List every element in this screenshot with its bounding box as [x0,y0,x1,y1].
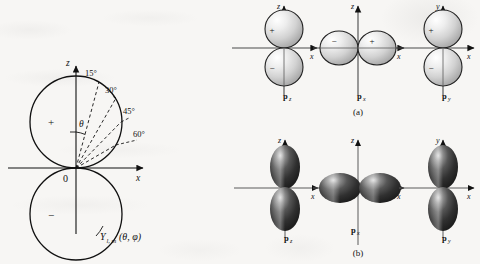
a2-left-sign: − [331,36,336,46]
b3-orbital-sub: y [447,238,451,244]
panel-b-orbital-px: z x p x [313,136,404,245]
angle-label-15: 15° [85,68,97,78]
panel-a-orbital-px: − + z x p x [313,2,404,102]
panel-a-orbital-pz: + − z x p z [232,2,317,102]
b3-upper-lobe-sheen [428,145,458,189]
b1-upper-lobe-sheen [270,145,300,189]
a1-orbital-label: p [283,91,288,101]
left-origin-label: 0 [63,173,68,184]
a1-orbital-sub: z [288,96,292,102]
b1-z-axis-label: z [277,136,282,145]
a2-orbital-label: p [357,91,362,101]
angle-label-60: 60° [133,129,145,139]
left-theta-arc [76,132,85,135]
figure-svg: z x 0 + − θ 15° 30° 45° 60° Y l, m (θ, φ… [0,0,480,264]
panel-a-caption: (a) [353,107,363,117]
b1-orbital-label: p [284,233,289,243]
b3-lower-lobe-sheen [428,187,458,231]
b1-x-axis-label: x [310,192,315,201]
function-args: (θ, φ) [119,231,142,243]
b2-orbital-label: p [351,225,356,235]
a2-orbital-sub: x [362,96,366,102]
panel-a-orbital-py: + − y x p y [398,2,474,102]
angle-label-45: 45° [123,106,135,116]
a1-lower-sign: − [269,63,274,73]
angle-label-30: 30° [105,85,117,95]
left-upper-sign: + [48,116,54,128]
left-x-axis-label: x [135,173,141,183]
b3-orbital-label: p [442,233,447,243]
b2-orbital-sub: x [356,230,360,236]
a1-upper-sign: + [269,25,274,35]
a3-y-axis-label: y [435,2,440,11]
function-subscript: l, m [107,237,117,244]
a3-x-axis-label: x [466,52,471,61]
left-z-axis-label: z [65,58,70,68]
b3-x-axis-label: x [466,192,471,201]
a1-z-axis-label: z [276,2,281,11]
left-function-label: Y l, m (θ, φ) [100,231,142,244]
a1-x-axis-label: x [309,52,314,61]
left-theta-label: θ [79,119,84,129]
a3-upper-sign: + [428,25,433,35]
left-panel-group: z x 0 + − θ 15° 30° 45° 60° Y l, m (θ, φ… [8,58,145,260]
b2-right-lobe-sheen [359,173,401,203]
a2-x-axis-label: x [396,52,401,61]
b3-y-axis-label: y [435,136,440,145]
a3-orbital-sub: y [447,96,451,102]
b1-lower-lobe-sheen [270,187,300,231]
a2-z-axis-label: z [350,2,355,11]
panel-a-group: + − z x p z − + z x p x + [232,2,474,117]
panel-b-orbital-pz: z x p z [234,136,318,244]
a3-orbital-label: p [442,91,447,101]
panel-b-group: z x p z z x p x y x p [234,136,474,258]
figure-stage: z x 0 + − θ 15° 30° 45° 60° Y l, m (θ, φ… [0,0,480,264]
b2-z-axis-label: z [350,136,355,145]
b2-left-lobe-sheen [319,173,361,203]
b1-orbital-sub: z [289,238,293,244]
a3-lower-sign: − [428,63,433,73]
panel-b-orbital-py: y x p y [399,136,474,244]
left-lower-sign: − [48,209,54,221]
b2-x-axis-label: x [396,192,401,201]
a2-right-sign: + [369,36,374,46]
panel-b-caption: (b) [353,248,364,258]
